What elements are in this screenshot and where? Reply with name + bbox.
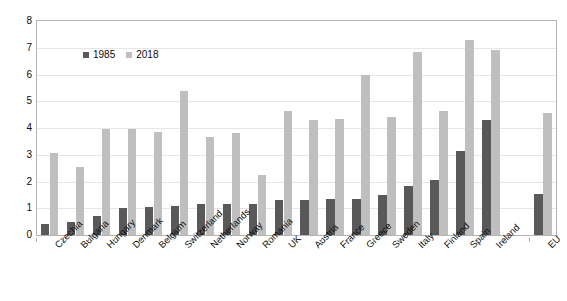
x-tick — [166, 238, 167, 242]
bar-group — [249, 21, 267, 235]
x-tick — [62, 238, 63, 242]
y-tick-label: 4 — [2, 123, 32, 133]
x-tick-label-norway: Norway — [235, 243, 242, 250]
x-tick — [88, 238, 89, 242]
bar-czechia-1985 — [41, 224, 50, 235]
x-tick-label-greece: Greece — [364, 243, 371, 250]
bar-eu-2018 — [543, 113, 552, 235]
bar-group — [404, 21, 422, 235]
bar-greece-2018 — [361, 75, 370, 236]
bar-finland-1985 — [430, 180, 439, 235]
x-tick — [269, 238, 270, 242]
y-axis: 012345678 — [0, 0, 32, 260]
bar-spain-2018 — [465, 40, 474, 235]
bar-austria-2018 — [309, 120, 318, 235]
x-tick-label-spain: Spain — [468, 243, 475, 250]
bar-austria-1985 — [300, 200, 309, 235]
x-tick — [477, 238, 478, 242]
bar-czechia-2018 — [50, 153, 59, 235]
bar-group — [197, 21, 215, 235]
bar-eu-1985 — [534, 194, 543, 235]
x-tick-label-hungary: Hungary — [105, 243, 112, 250]
x-tick-label-bulgaria: Bulgaria — [79, 243, 86, 250]
x-tick — [191, 238, 192, 242]
bar-group — [171, 21, 189, 235]
bar-group — [456, 21, 474, 235]
bar-group — [534, 21, 552, 235]
x-tick-label-ireland: Ireland — [494, 243, 501, 250]
bar-group — [326, 21, 344, 235]
x-tick-label-switzerland: Switzerland — [183, 243, 190, 250]
bar-ireland-1985 — [482, 120, 491, 235]
bar-group — [430, 21, 448, 235]
bar-group — [41, 21, 59, 235]
x-tick — [347, 238, 348, 242]
y-tick-label: 5 — [2, 96, 32, 106]
x-axis: CzechiaBulgariaHungaryDenmarkBelgiumSwit… — [36, 238, 557, 301]
x-tick-label-italy: Italy — [416, 243, 423, 250]
bar-group — [223, 21, 241, 235]
x-tick-label-belgium: Belgium — [157, 243, 164, 250]
legend-entry-2018: 2018 — [126, 50, 158, 60]
bar-finland-2018 — [439, 111, 448, 235]
bar-chart: 012345678 1985 2018 CzechiaBulgariaHunga… — [0, 0, 567, 301]
x-tick-label-uk: UK — [287, 243, 294, 250]
legend-swatch-icon-2018 — [126, 52, 132, 58]
x-tick-label-denmark: Denmark — [131, 243, 138, 250]
bar-group — [352, 21, 370, 235]
plot-area: 1985 2018 — [36, 20, 557, 236]
y-tick-label: 1 — [2, 203, 32, 213]
x-tick-label-france: France — [338, 243, 345, 250]
x-tick — [529, 238, 530, 242]
legend-label-1985: 1985 — [93, 50, 115, 60]
bar-group — [67, 21, 85, 235]
bar-italy-2018 — [413, 52, 422, 235]
x-tick — [399, 238, 400, 242]
x-tick-label-eu: EU — [546, 243, 553, 250]
y-tick-label: 6 — [2, 70, 32, 80]
bar-france-2018 — [335, 119, 344, 235]
x-tick-label-sweden: Sweden — [390, 243, 397, 250]
y-tick-label: 2 — [2, 177, 32, 187]
y-tick-label: 0 — [2, 230, 32, 240]
x-tick — [425, 238, 426, 242]
x-tick — [36, 238, 37, 242]
chart-legend: 1985 2018 — [83, 50, 159, 60]
x-tick — [321, 238, 322, 242]
bar-ireland-2018 — [491, 50, 500, 235]
x-tick — [373, 238, 374, 242]
x-tick-label-czechia: Czechia — [53, 243, 60, 250]
x-tick-label-netherlands: Netherlands — [209, 243, 216, 250]
x-tick — [295, 238, 296, 242]
bar-group — [378, 21, 396, 235]
x-tick-label-austria: Austria — [312, 243, 319, 250]
x-tick — [114, 238, 115, 242]
x-tick — [243, 238, 244, 242]
y-tick-label: 3 — [2, 150, 32, 160]
bar-sweden-2018 — [387, 117, 396, 235]
x-tick — [217, 238, 218, 242]
legend-swatch-icon-1985 — [83, 52, 89, 58]
bar-switzerland-2018 — [180, 91, 189, 235]
x-tick-label-finland: Finland — [442, 243, 449, 250]
bar-group — [275, 21, 293, 235]
y-tick-label: 8 — [2, 16, 32, 26]
x-tick-label-romania: Romania — [261, 243, 268, 250]
bar-group — [300, 21, 318, 235]
x-tick — [140, 238, 141, 242]
x-tick — [451, 238, 452, 242]
y-tick-label: 7 — [2, 43, 32, 53]
bar-group — [482, 21, 500, 235]
legend-label-2018: 2018 — [136, 50, 158, 60]
legend-entry-1985: 1985 — [83, 50, 115, 60]
